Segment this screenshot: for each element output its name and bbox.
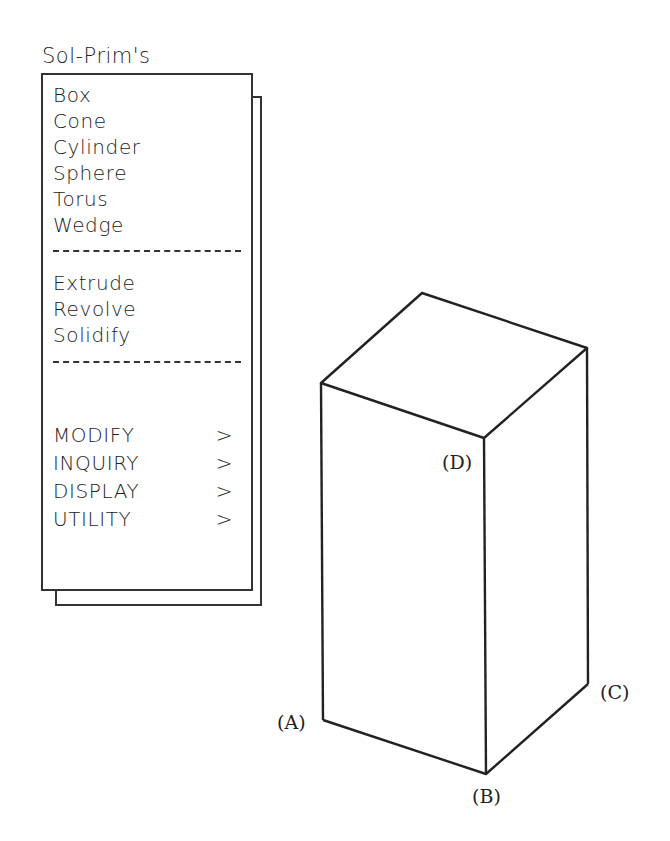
- vertex-label-d: (D): [442, 451, 472, 473]
- vertex-label-b: (B): [472, 785, 501, 807]
- vertex-label-c: (C): [600, 681, 629, 703]
- box-solid-figure: [0, 0, 670, 841]
- vertex-label-a: (A): [277, 711, 306, 733]
